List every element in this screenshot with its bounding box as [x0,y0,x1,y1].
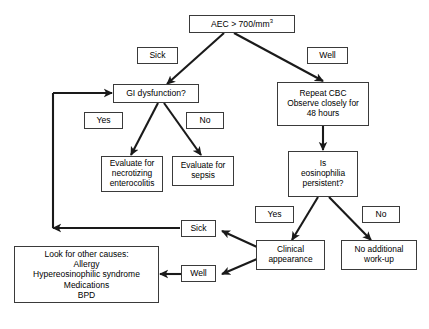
node-label-no-persistent: No [362,206,400,223]
node-clinical-appearance: Clinical appearance [256,240,325,270]
node-no-additional-workup: No additional work-up [341,240,417,270]
node-label-well-top-text: Well [308,50,347,60]
node-label-no-persistent-text: No [363,209,399,219]
node-label-no-gi: No [186,112,224,129]
node-label-yes-persistent-text: Yes [256,209,293,219]
edge-persistent-to-clinical [292,197,318,240]
node-is-eosinophilia-persistent: Is eosinophilia persistent? [288,151,358,197]
node-clinical-appearance-label: Clinical appearance [257,245,324,265]
node-repeat-cbc: Repeat CBC Observe closely for 48 hours [277,82,369,126]
node-evaluate-sepsis: Evaluate for sepsis [172,156,234,186]
edge-gi-to-sepsis [164,103,201,155]
flowchart-canvas: AEC > 700/mm3 Sick Well GI dysfunction? … [0,0,429,329]
node-look-for-other-causes-label: Look for other causes: Allergy Hypereosi… [15,249,158,299]
node-evaluate-sepsis-label: Evaluate for sepsis [173,161,233,181]
edge-clinical-to-well [222,259,257,274]
node-label-sick-bottom-text: Sick [182,223,215,233]
node-label-no-gi-text: No [187,115,223,125]
node-label-sick-top: Sick [137,47,178,64]
node-look-for-other-causes: Look for other causes: Allergy Hypereosi… [14,246,159,303]
node-gi-dysfunction: GI dysfunction? [113,84,199,103]
node-label-sick-bottom: Sick [181,220,216,237]
node-gi-dysfunction-label: GI dysfunction? [114,88,198,98]
node-evaluate-nec-label: Evaluate for necrotizing enterocolitis [102,159,162,189]
node-is-eosinophilia-persistent-label: Is eosinophilia persistent? [289,159,357,189]
edge-gi-to-nec [131,103,158,155]
node-label-well-bottom-text: Well [182,268,215,278]
node-label-yes-gi-text: Yes [85,115,122,125]
node-repeat-cbc-label: Repeat CBC Observe closely for 48 hours [278,89,368,119]
node-label-yes-persistent: Yes [255,206,294,223]
node-label-sick-top-text: Sick [138,50,177,60]
node-no-additional-workup-label: No additional work-up [342,245,416,265]
node-evaluate-nec: Evaluate for necrotizing enterocolitis [101,156,163,192]
node-label-well-bottom: Well [181,265,216,282]
node-aec-threshold-label: AEC > 700/mm3 [190,19,294,29]
edge-clinical-to-sick [222,231,257,247]
node-label-well-top: Well [307,47,348,64]
node-label-yes-gi: Yes [84,112,123,129]
node-aec-threshold: AEC > 700/mm3 [189,15,295,33]
